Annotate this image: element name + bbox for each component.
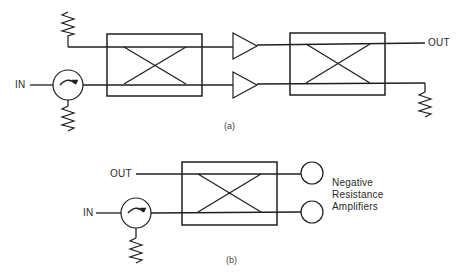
circuit-diagram bbox=[0, 0, 464, 275]
lower-line-b bbox=[151, 212, 301, 213]
amplifier-icon bbox=[233, 72, 257, 98]
hybrid-coupler-icon bbox=[107, 34, 202, 96]
output-label-b: OUT bbox=[110, 169, 132, 179]
input-label-b: IN bbox=[83, 208, 94, 218]
output-label-a: OUT bbox=[428, 38, 450, 48]
caption-b: (b) bbox=[226, 256, 237, 265]
figure: IN OUT (a) OUT IN Negative Resistance Am… bbox=[0, 0, 464, 275]
resistor-icon bbox=[62, 100, 74, 131]
circulator-icon bbox=[53, 70, 83, 100]
amplifier-label-line: Negative bbox=[332, 177, 383, 189]
caption-a: (a) bbox=[224, 122, 235, 131]
resistor-icon bbox=[419, 83, 431, 117]
hybrid-coupler-icon bbox=[290, 33, 385, 95]
input-label-a: IN bbox=[15, 80, 26, 90]
resistor-icon bbox=[62, 12, 74, 47]
amplifier-label-line: Amplifiers bbox=[332, 201, 383, 213]
amplifier-label-b: Negative Resistance Amplifiers bbox=[332, 177, 383, 213]
amplifier-icon bbox=[233, 33, 257, 59]
hybrid-coupler-icon bbox=[182, 162, 277, 225]
circulator-icon bbox=[121, 198, 151, 228]
negative-resistance-amplifier-icon bbox=[301, 201, 323, 223]
amplifier-label-line: Resistance bbox=[332, 189, 383, 201]
panel-a bbox=[30, 12, 431, 131]
resistor-icon bbox=[130, 228, 142, 263]
negative-resistance-amplifier-icon bbox=[301, 162, 323, 184]
